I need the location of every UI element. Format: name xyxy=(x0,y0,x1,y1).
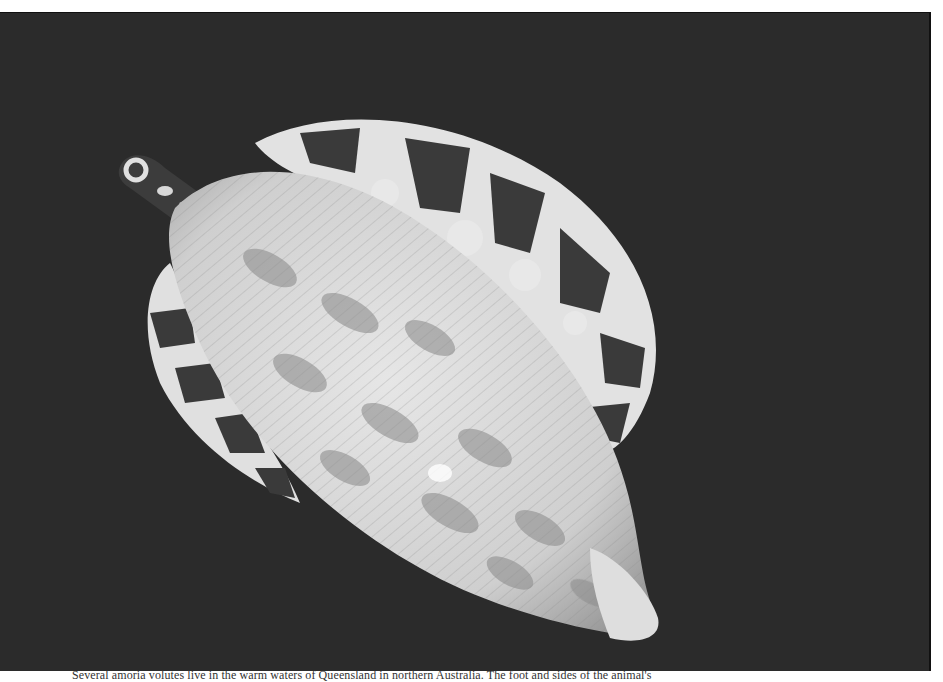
volute-shell-image xyxy=(0,13,929,671)
figure-caption: Several amoria volutes live in the warm … xyxy=(72,668,652,682)
photograph xyxy=(0,12,931,671)
shell-body xyxy=(0,13,929,671)
